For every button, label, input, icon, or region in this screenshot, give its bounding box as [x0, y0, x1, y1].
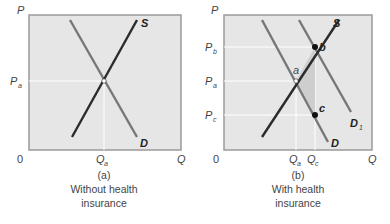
svg-text:D: D: [350, 117, 358, 129]
caption-letter-a: (a): [98, 169, 111, 181]
caption-line2-b: insurance: [275, 197, 321, 209]
point-c: [312, 112, 318, 118]
point-b: [312, 44, 318, 50]
panel-a: P Q 0 P a Q a S D (a) Without health ins…: [10, 4, 186, 209]
svg-text:c: c: [213, 116, 217, 123]
svg-text:P: P: [205, 109, 213, 121]
supply-label-b: S: [333, 17, 341, 29]
panel-b: a b c P Q 0 P b P a P c Q a Q c S D D 1: [205, 4, 377, 209]
point-a-label: a: [293, 64, 299, 76]
price-tick-pa: P a: [10, 75, 22, 89]
caption-letter-b: (b): [292, 169, 305, 181]
quantity-tick-qc: Q c: [307, 153, 319, 167]
caption-line2-a: insurance: [81, 197, 127, 209]
diagram-canvas: P Q 0 P a Q a S D (a) Without health ins…: [0, 0, 390, 224]
svg-text:c: c: [315, 160, 319, 167]
equilibrium-point-a: [102, 79, 106, 83]
price-tick-pb: P b: [205, 41, 217, 55]
demand-label-b: D: [331, 137, 339, 149]
svg-text:P: P: [205, 41, 213, 53]
svg-text:a: a: [18, 82, 22, 89]
point-a: [294, 79, 298, 83]
svg-text:1: 1: [359, 124, 363, 131]
y-axis-label-a: P: [17, 4, 25, 16]
point-c-label: c: [319, 102, 325, 114]
x-axis-label-a: Q: [177, 153, 186, 165]
origin-label-b: 0: [213, 153, 219, 165]
svg-text:P: P: [10, 75, 18, 87]
svg-text:P: P: [205, 75, 213, 87]
demand-label-a: D: [140, 137, 148, 149]
point-b-label: b: [319, 41, 326, 53]
svg-text:b: b: [213, 48, 217, 55]
price-tick-pc: P c: [205, 109, 217, 123]
y-axis-label-b: P: [211, 4, 219, 16]
svg-text:a: a: [104, 160, 108, 167]
x-axis-label-b: Q: [368, 153, 377, 165]
caption-line1-a: Without health: [70, 183, 137, 195]
quantity-tick-qa: Q a: [96, 153, 108, 167]
supply-label-a: S: [141, 17, 149, 29]
caption-line1-b: With health: [272, 183, 325, 195]
svg-text:a: a: [213, 82, 217, 89]
quantity-tick-qa-b: Q a: [289, 153, 301, 167]
svg-text:a: a: [297, 160, 301, 167]
price-tick-pa-b: P a: [205, 75, 217, 89]
origin-label-a: 0: [17, 153, 23, 165]
